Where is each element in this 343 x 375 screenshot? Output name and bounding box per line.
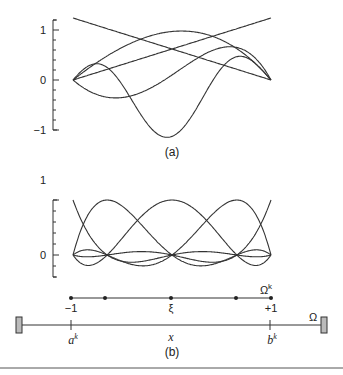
a-k-label: ak bbox=[68, 331, 78, 346]
domain-omega-label: Ω bbox=[309, 311, 317, 323]
element-xi-label: ξ bbox=[169, 302, 174, 314]
panel-b-y-axis bbox=[53, 200, 59, 277]
panel-b-curves bbox=[73, 200, 271, 266]
panel-b-label: (b) bbox=[165, 346, 180, 358]
reference-element bbox=[69, 296, 273, 300]
left-boundary-block bbox=[16, 317, 22, 333]
panel-a-tick-0: 0 bbox=[26, 74, 46, 86]
panel-b-tick-0: 0 bbox=[26, 249, 46, 261]
panel-a-y-axis bbox=[53, 20, 59, 130]
element-left-label: −1 bbox=[65, 302, 78, 314]
figure-canvas bbox=[0, 0, 343, 375]
element-omega-k-label: Ωk bbox=[260, 281, 272, 296]
right-boundary-block bbox=[321, 317, 327, 333]
x-label: x bbox=[168, 331, 173, 343]
panel-a-label: (a) bbox=[165, 146, 180, 158]
panel-b-tick-1: 1 bbox=[26, 174, 46, 186]
panel-a-tick-minus1: −1 bbox=[26, 124, 46, 136]
panel-a-tick-1: 1 bbox=[26, 24, 46, 36]
element-right-label: +1 bbox=[265, 302, 278, 314]
b-k-label: bk bbox=[267, 331, 277, 346]
panel-a-curves bbox=[73, 18, 271, 137]
